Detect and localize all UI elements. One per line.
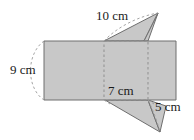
dimension-label-9cm: 9 cm — [10, 62, 36, 77]
dimension-label-5cm: 5 cm — [155, 99, 181, 114]
dimension-label-10cm: 10 cm — [96, 8, 128, 23]
geometry-figure-container: 9 cm 10 cm 7 cm 5 cm — [0, 0, 194, 140]
geometry-net-diagram: 9 cm 10 cm 7 cm 5 cm — [0, 0, 194, 140]
dimension-label-7cm: 7 cm — [108, 83, 134, 98]
